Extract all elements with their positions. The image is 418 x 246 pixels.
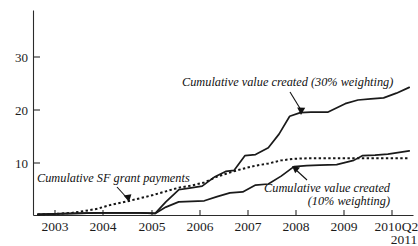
chart-container: 10 20 30 2003 2004 2005 2006 2007 2008 2…: [0, 0, 418, 246]
chart-background: [0, 0, 418, 246]
y-tick-label-20: 20: [15, 103, 28, 118]
annotation-30pct-label: Cumulative value created (30% weighting): [182, 75, 393, 89]
x-tick-label-2003: 2003: [42, 219, 69, 234]
line-chart: 10 20 30 2003 2004 2005 2006 2007 2008 2…: [0, 0, 418, 246]
x-tick-label-2008: 2008: [283, 219, 310, 234]
x-tick-label-2011: 2011: [391, 232, 418, 246]
annotation-10pct-label-line1: Cumulative value created: [264, 181, 391, 195]
y-tick-label-10: 10: [15, 156, 28, 171]
x-tick-label-2007: 2007: [235, 219, 262, 234]
annotation-10pct-label-line2: (10% weighting): [308, 194, 390, 208]
x-tick-label-2009: 2009: [331, 219, 358, 234]
y-tick-label-30: 30: [15, 50, 28, 65]
annotation-sf-grant-label: Cumulative SF grant payments: [37, 171, 190, 185]
x-tick-label-2005: 2005: [139, 219, 166, 234]
x-tick-label-2004: 2004: [90, 219, 117, 234]
x-tick-label-2006: 2006: [187, 219, 214, 234]
